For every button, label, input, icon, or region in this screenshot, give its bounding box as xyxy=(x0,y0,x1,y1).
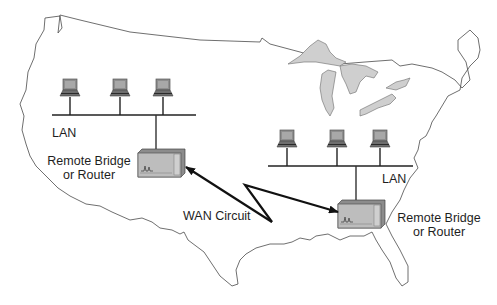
west-router-label-line1: Remote Bridge xyxy=(44,154,134,168)
west-lan-label: LAN xyxy=(52,126,76,140)
east-router-label-line2: or Router xyxy=(394,225,484,239)
computer-icon xyxy=(60,79,80,96)
computer-icon xyxy=(327,130,347,147)
west-router-label-line2: or Router xyxy=(44,168,134,182)
diagram-graphics xyxy=(0,0,497,305)
east-router-label: Remote Bridge or Router xyxy=(394,211,484,239)
computer-icon xyxy=(153,79,173,96)
us-map-outline xyxy=(20,15,480,286)
east-router-label-line1: Remote Bridge xyxy=(394,211,484,225)
computer-icon xyxy=(110,79,130,96)
west-router-label: Remote Bridge or Router xyxy=(44,154,134,182)
wan-circuit-label: WAN Circuit xyxy=(183,209,251,223)
computer-icon xyxy=(277,130,297,147)
router-icon xyxy=(138,149,185,177)
computer-icon xyxy=(370,130,390,147)
router-icon xyxy=(338,200,385,228)
east-lan-label: LAN xyxy=(382,172,406,186)
network-diagram: LAN Remote Bridge or Router LAN Remote B… xyxy=(0,0,497,305)
